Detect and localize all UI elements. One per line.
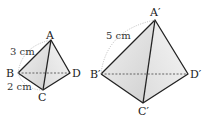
similar-tetrahedra-diagram: A B C D 3 cm 2 cm A′ B′ C′ D′ 5 cm	[0, 0, 208, 120]
vertex-label-b-prime: B′	[90, 68, 101, 81]
vertex-label-d-prime: D′	[190, 68, 202, 81]
vertex-label-a: A	[45, 29, 55, 42]
vertex-label-d: D	[72, 67, 81, 80]
vertex-label-c-prime: C′	[138, 105, 149, 118]
vertex-label-b: B	[6, 67, 14, 80]
vertex-label-c: C	[38, 91, 46, 104]
vertex-label-a-prime: A′	[149, 6, 161, 19]
dimension-label-bc: 2 cm	[7, 81, 32, 92]
dimension-label-a-b-prime: 5 cm	[106, 30, 131, 41]
dimension-label-ab: 3 cm	[10, 46, 35, 57]
large-tetrahedron: A′ B′ C′ D′ 5 cm	[90, 6, 202, 118]
small-tetrahedron: A B C D 3 cm 2 cm	[6, 29, 81, 104]
